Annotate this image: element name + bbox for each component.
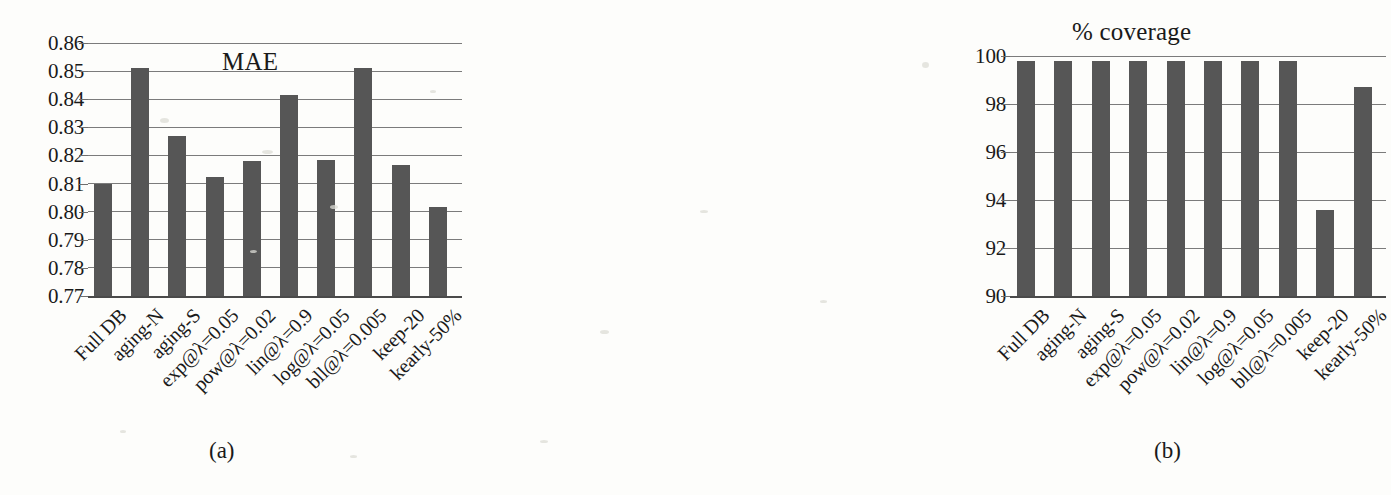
bar: [1204, 61, 1222, 296]
bar-series-coverage: [1010, 56, 1386, 296]
scan-artifact: [700, 210, 708, 213]
panel-caption-a: (a): [209, 438, 235, 464]
scan-artifact: [430, 90, 436, 93]
y-tick-mark: [1001, 56, 1010, 57]
scan-artifact: [820, 300, 827, 303]
chart-title-coverage: % coverage: [1072, 18, 1191, 46]
bar: [1054, 61, 1072, 296]
y-tick-mark: [79, 268, 88, 269]
y-axis-labels-mae: 0.860.850.840.830.820.810.800.790.780.77: [10, 0, 84, 495]
x-axis-labels-coverage: Full DBaging-Naging-Sexp@λ=0.05pow@λ=0.0…: [1010, 300, 1386, 430]
chart-panel-mae: 0.860.850.840.830.820.810.800.790.780.77…: [0, 0, 474, 495]
bar: [94, 184, 112, 296]
bar: [1354, 87, 1372, 296]
bar: [317, 160, 335, 296]
bar: [1092, 61, 1110, 296]
y-tick-mark: [1001, 152, 1010, 153]
bar: [429, 207, 447, 296]
y-tick-mark: [79, 127, 88, 128]
y-tick-mark: [79, 184, 88, 185]
bar: [1279, 61, 1297, 296]
bar: [1167, 61, 1185, 296]
scan-artifact: [540, 440, 548, 443]
scan-artifact: [250, 250, 257, 253]
bar: [243, 161, 261, 296]
y-tick-mark: [1001, 296, 1010, 297]
bar: [1017, 61, 1035, 296]
scan-artifact: [600, 330, 609, 334]
bar-series-mae: [88, 43, 462, 296]
scan-artifact: [262, 150, 273, 154]
bar: [1316, 210, 1334, 296]
y-tick-mark: [1001, 104, 1010, 105]
bar: [280, 95, 298, 296]
y-tick-mark: [79, 212, 88, 213]
plot-area-coverage: [1010, 56, 1386, 296]
chart-title-mae: MAE: [222, 48, 278, 76]
scan-artifact: [922, 62, 929, 68]
scan-artifact: [160, 118, 169, 123]
y-tick-mark: [1001, 200, 1010, 201]
bar: [168, 136, 186, 296]
bar: [1129, 61, 1147, 296]
chart-panel-coverage: 1009896949290 % coverage Full DBaging-Na…: [474, 0, 948, 495]
scan-artifact: [120, 430, 126, 433]
bar: [206, 177, 224, 296]
y-tick-mark: [79, 155, 88, 156]
y-tick-mark: [1001, 248, 1010, 249]
panel-caption-b: (b): [1154, 438, 1181, 464]
scan-artifact: [330, 205, 338, 209]
bar: [1241, 61, 1259, 296]
y-tick-mark: [79, 296, 88, 297]
bar: [131, 68, 149, 296]
y-tick-mark: [79, 99, 88, 100]
y-tick-mark: [79, 71, 88, 72]
bar: [354, 68, 372, 296]
y-tick-mark: [79, 43, 88, 44]
bar: [392, 165, 410, 296]
y-tick-mark: [79, 240, 88, 241]
x-axis-labels-mae: Full DBaging-Naging-Sexp@λ=0.05pow@λ=0.0…: [88, 300, 462, 430]
scan-artifact: [350, 455, 357, 458]
y-axis-labels-coverage: 1009896949290: [936, 0, 1006, 495]
plot-area-mae: [88, 43, 462, 296]
